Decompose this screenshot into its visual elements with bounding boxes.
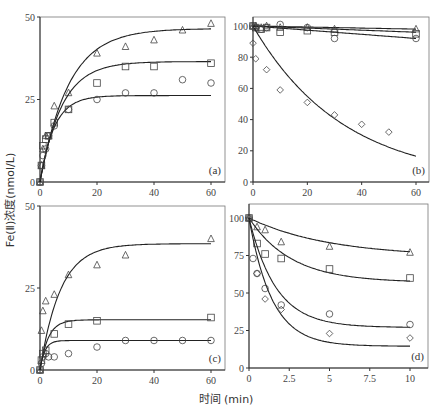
x-tick-label: 40 [149, 187, 159, 198]
y-tick-label: 100 [233, 21, 248, 32]
x-tick-label: 0 [38, 187, 43, 198]
y-tick-label: 50 [234, 288, 244, 299]
fit-curve [40, 29, 211, 182]
panel-a: 025500204060(a) [25, 12, 225, 199]
x-tick-label: 60 [411, 187, 421, 198]
x-tick-label: 60 [206, 375, 216, 386]
y-tick-label: 25 [25, 94, 35, 105]
fit-curve [40, 62, 211, 182]
y-tick-label: 75 [234, 250, 244, 261]
y-tick-label: 0 [30, 365, 35, 376]
y-tick-label: 20 [238, 145, 248, 156]
y-axis-label-svg: Fe(Ⅱ)浓度(nmol/L) [3, 153, 17, 247]
x-tick-label: 2.5 [283, 373, 296, 384]
x-tick-label: 20 [92, 187, 102, 198]
y-tick-label: 0 [30, 177, 35, 188]
y-tick-label: 25 [25, 283, 35, 294]
panel-c: 025500204060(c) [25, 201, 225, 387]
x-tick-label: 0 [251, 187, 256, 198]
y-tick-label: 40 [238, 114, 248, 125]
y-tick-label: 50 [25, 12, 35, 23]
x-tick-label: 20 [302, 187, 312, 198]
x-axis-label-svg: 时间 (min) [199, 393, 254, 406]
x-tick-label: 0 [38, 375, 43, 386]
x-tick-label: 5 [327, 373, 332, 384]
panel-label: (c) [209, 352, 222, 365]
y-tick-label: 80 [238, 52, 248, 63]
figure: 025500204060(a)0204060801000204060(b)025… [0, 0, 441, 416]
panel-label: (a) [209, 164, 222, 177]
x-tick-label: 10 [405, 373, 415, 384]
y-tick-label: 0 [243, 177, 248, 188]
y-tick-label: 50 [25, 201, 35, 212]
x-tick-label: 7.5 [364, 373, 377, 384]
panel-label: (d) [411, 350, 424, 363]
y-tick-label: 25 [234, 325, 244, 336]
panel-label: (b) [412, 164, 425, 177]
x-tick-label: 20 [92, 375, 102, 386]
y-tick-label: 100 [229, 213, 244, 224]
x-tick-label: 60 [206, 187, 216, 198]
x-tick-label: 0 [247, 373, 252, 384]
fit-curve [40, 244, 211, 370]
panel-b: 0204060801000204060(b) [233, 17, 429, 198]
y-tick-label: 60 [238, 83, 248, 94]
panel-d: 025507510002.557.510(d) [229, 204, 428, 384]
x-tick-label: 40 [149, 375, 159, 386]
x-tick-label: 40 [357, 187, 367, 198]
y-tick-label: 0 [239, 363, 244, 374]
